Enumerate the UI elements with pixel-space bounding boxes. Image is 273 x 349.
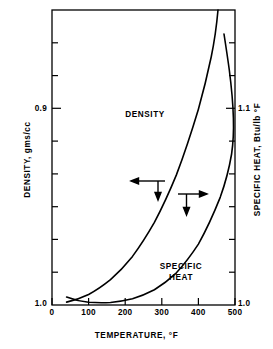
right-ytick-label-1-0: 1.0 xyxy=(238,299,272,308)
xtick-label-300: 300 xyxy=(147,308,177,317)
left-ytick-label-1-0: 1.0 xyxy=(13,299,47,308)
xtick-label-100: 100 xyxy=(74,308,104,317)
xtick-label-500: 500 xyxy=(220,308,250,317)
curve-label-specific-heat: SPECIFICHEAT xyxy=(148,261,214,283)
xtick-label-400: 400 xyxy=(183,308,213,317)
x-axis-title: TEMPERATURE, °F xyxy=(0,331,273,340)
xtick-label-0: 0 xyxy=(37,308,67,317)
y-axis-left-title: DENSITY, gms/cc xyxy=(23,70,32,250)
y-axis-right-title: SPECIFIC HEAT, Btu/lb °F xyxy=(253,70,262,250)
chart-plot-area xyxy=(0,0,273,349)
curve-label-density: DENSITY xyxy=(113,110,177,119)
xtick-label-200: 200 xyxy=(110,308,140,317)
chart-figure: 0 100 200 300 400 500 0.9 1.0 1.1 1.0 TE… xyxy=(0,0,273,349)
